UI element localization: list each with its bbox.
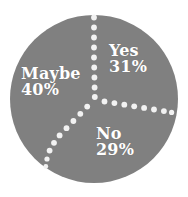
slice-label-yes: Yes 31%	[109, 43, 147, 76]
divider-yes-maybe	[91, 15, 98, 100]
slice-label-no: No 29%	[96, 126, 134, 159]
slice-label-no-value: 29%	[96, 142, 134, 158]
slice-label-yes-value: 31%	[109, 59, 147, 75]
slice-label-maybe-value: 40%	[21, 82, 81, 98]
slice-label-maybe: Maybe 40%	[21, 66, 81, 99]
pie-chart: Yes 31% Maybe 40% No 29%	[0, 0, 188, 197]
